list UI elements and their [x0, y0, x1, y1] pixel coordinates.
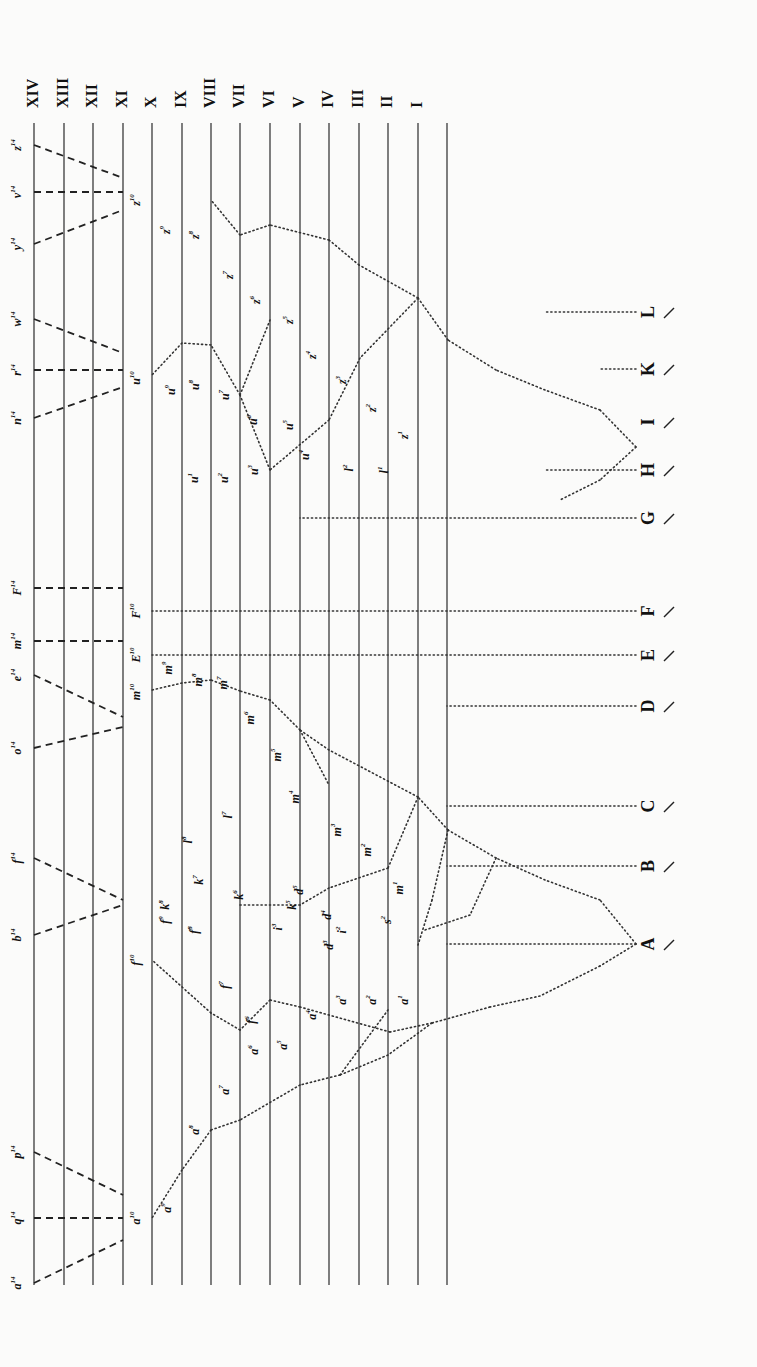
node-label: m10: [128, 683, 143, 700]
dotted-line: [448, 830, 496, 858]
node-label: s2: [379, 915, 394, 925]
generation-label: XI: [113, 90, 130, 108]
dotted-line: [270, 700, 300, 730]
node-label: a9: [159, 1203, 174, 1213]
dotted-line: [496, 858, 545, 880]
dotted-line: [300, 730, 329, 785]
node-label: m3: [329, 823, 344, 836]
dashed-line: [34, 858, 123, 900]
dotted-line: [600, 447, 636, 480]
node-label: m6: [242, 711, 257, 724]
base-tick: [664, 466, 674, 476]
node-label: o14: [9, 741, 24, 755]
node-label: z7: [221, 270, 236, 280]
node-label: u8: [187, 379, 202, 390]
node-label: f9: [157, 916, 172, 924]
dotted-line: [496, 370, 545, 390]
node-label: z9: [158, 225, 173, 235]
dashed-line: [34, 1240, 123, 1283]
node-label: w14: [9, 311, 24, 327]
node-label: z3: [334, 375, 349, 385]
base-species-label: F: [638, 606, 658, 617]
node-label: l2: [341, 464, 356, 471]
base-species-label: D: [638, 700, 658, 713]
base-tick: [664, 651, 674, 661]
dotted-line: [240, 1000, 270, 1030]
base-species-label: I: [638, 418, 658, 425]
dashed-line: [34, 387, 123, 418]
generation-label: I: [408, 102, 425, 108]
base-tick: [664, 365, 674, 375]
dotted-line: [448, 340, 496, 370]
node-label: a3: [334, 995, 349, 1005]
node-label: u3: [246, 464, 261, 475]
generation-label: VI: [260, 90, 277, 108]
node-label: q14: [9, 1211, 24, 1225]
node-label: z4: [304, 350, 319, 360]
dotted-line: [152, 343, 182, 375]
base-tick: [664, 418, 674, 428]
generation-lines: [34, 123, 447, 1285]
node-label: u5: [281, 419, 296, 430]
dotted-line: [432, 1007, 490, 1023]
node-label: k6: [231, 890, 246, 900]
dashed-line: [34, 145, 123, 178]
node-label: z2: [364, 403, 379, 413]
node-label: a8: [187, 1125, 202, 1135]
node-label: u6: [245, 414, 260, 425]
node-label: e14: [9, 668, 24, 681]
dotted-line: [545, 880, 600, 900]
node-label: m1: [391, 882, 406, 895]
node-label: m5: [269, 748, 284, 761]
base-species-label: B: [638, 860, 658, 872]
dotted-line: [600, 900, 636, 944]
node-label: z8: [187, 230, 202, 240]
base-tick: [664, 702, 674, 712]
dotted-line: [545, 390, 600, 410]
node-label: z6: [248, 295, 263, 305]
node-label: u1: [186, 473, 201, 483]
node-label: f6: [243, 1016, 258, 1024]
dotted-line: [329, 750, 418, 797]
dotted-line: [211, 1013, 240, 1030]
dotted-line: [211, 1120, 240, 1130]
base-species-label: K: [638, 362, 658, 376]
base-species-label: G: [638, 511, 658, 525]
node-label: l8: [180, 836, 195, 843]
node-label: a14: [9, 1276, 24, 1290]
base-tick: [664, 802, 674, 812]
node-label: n14: [9, 411, 24, 425]
node-label: d4: [319, 910, 334, 920]
base-species-label: L: [638, 306, 658, 318]
node-label: m2: [359, 843, 374, 856]
dotted-branch-lines: [152, 200, 636, 1218]
node-label: a10: [128, 1211, 143, 1225]
dotted-line: [270, 1000, 300, 1007]
node-label: z1: [396, 431, 411, 440]
node-label: z14: [9, 139, 24, 152]
base-species-labels: ABCDEFGHIKL: [638, 306, 674, 951]
dotted-line: [560, 480, 600, 500]
dotted-line: [211, 200, 240, 235]
node-label: F10: [128, 603, 143, 620]
node-label: f10: [128, 954, 143, 966]
node-label: b14: [9, 928, 24, 942]
node-label: a7: [217, 1085, 232, 1095]
node-label: d5: [291, 885, 306, 895]
dotted-line: [540, 966, 600, 996]
dotted-line: [240, 225, 270, 235]
node-label: i2: [334, 926, 349, 933]
dotted-line: [418, 298, 448, 340]
dotted-line: [600, 410, 636, 447]
generation-label: XIV: [24, 78, 41, 108]
base-tick: [664, 308, 674, 318]
node-label: a2: [364, 995, 379, 1005]
generation-label: XII: [83, 84, 100, 108]
dotted-line: [418, 797, 448, 830]
node-label: k8: [157, 900, 172, 910]
base-tick: [664, 607, 674, 617]
node-label: y14: [9, 237, 24, 252]
generation-label: III: [349, 89, 366, 108]
base-species-label: E: [638, 649, 658, 661]
node-label: z10: [128, 194, 143, 207]
